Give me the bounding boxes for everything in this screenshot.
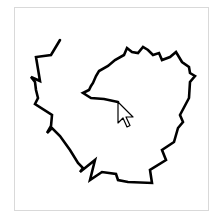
spiral-stroke-path bbox=[31, 40, 195, 183]
mouse-cursor-icon bbox=[117, 101, 137, 131]
drawn-stroke bbox=[0, 0, 221, 223]
drawing-app-screen bbox=[0, 0, 221, 223]
